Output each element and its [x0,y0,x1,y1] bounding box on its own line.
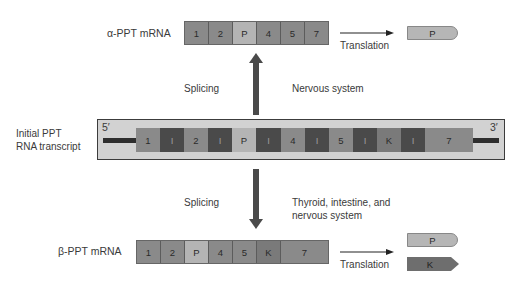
intron: I [305,128,329,152]
upper-splicing-label: Splicing [184,83,219,94]
exon-4: 4 [257,22,281,44]
exon-5: 5 [281,22,305,44]
exon-5: 5 [233,241,257,263]
five-prime-label: 5′ [102,121,110,133]
exon-p: P [232,128,256,152]
lower-splicing-label: Splicing [184,197,219,208]
exon-2: 2 [161,241,185,263]
intron: I [256,128,281,152]
exon-k: K [257,241,281,263]
exon-4: 4 [281,128,305,152]
exon-4: 4 [209,241,233,263]
intron: I [160,128,184,152]
exon-p: P [233,22,257,44]
beta-mrna-label: β-PPT mRNA [58,245,122,257]
intron: I [353,128,377,152]
intron: I [208,128,232,152]
transcript-label-line1: Initial PPT [16,128,62,139]
beta-mrna-strand: 1 2 P 4 5 K 7 [136,240,329,264]
three-prime-label: 3′ [490,121,498,133]
exon-1: 1 [137,241,161,263]
exon-7: 7 [425,128,473,152]
splicing-down-arrow-icon [248,169,264,231]
exon-2: 2 [209,22,233,44]
exon-7: 7 [305,22,328,44]
transcript-segments: 1 I 2 I P I 4 I 5 I K I 7 [136,128,473,152]
tissue-label-line1: Thyroid, intestine, and [292,197,390,208]
alpha-protein-p: P [407,26,458,40]
exon-1: 1 [136,128,160,152]
splicing-up-arrow-icon [248,53,264,115]
three-prime-strand [472,138,499,143]
beta-translation-arrow-icon [338,247,398,257]
nervous-system-label: Nervous system [292,83,364,94]
exon-7: 7 [281,241,328,263]
exon-2: 2 [184,128,208,152]
alpha-mrna-label: α-PPT mRNA [107,27,171,39]
beta-protein-p: P [407,233,458,247]
exon-5: 5 [329,128,353,152]
alpha-mrna-strand: 1 2 P 4 5 7 [184,21,329,45]
alpha-translation-arrow-icon [338,28,398,38]
tissue-label-line2: nervous system [292,210,362,221]
alpha-translation-label: Translation [340,40,389,51]
exon-k: K [377,128,401,152]
protein-k-label: K [407,257,453,271]
transcript-label-line2: RNA transcript [16,141,80,152]
beta-protein-k: K [407,257,459,271]
intron: I [401,128,425,152]
five-prime-strand [103,138,137,143]
exon-p: P [185,241,209,263]
exon-1: 1 [185,22,209,44]
beta-translation-label: Translation [340,259,389,270]
